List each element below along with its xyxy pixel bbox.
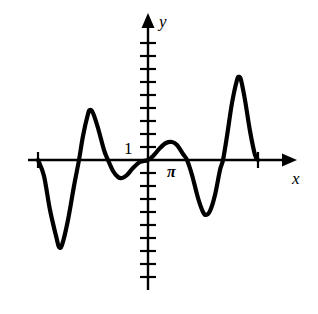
y-axis-label: y — [159, 13, 167, 30]
math-graph-figure: y x 1 π — [0, 0, 318, 314]
x-axis-arrowhead — [282, 154, 297, 167]
x-axis-label: x — [292, 170, 300, 187]
plot-canvas — [0, 0, 318, 314]
y-axis — [140, 13, 156, 290]
x-tick-label-pi: π — [167, 164, 176, 180]
y-axis-arrowhead — [142, 13, 155, 28]
y-tick-label-one: 1 — [124, 140, 133, 157]
